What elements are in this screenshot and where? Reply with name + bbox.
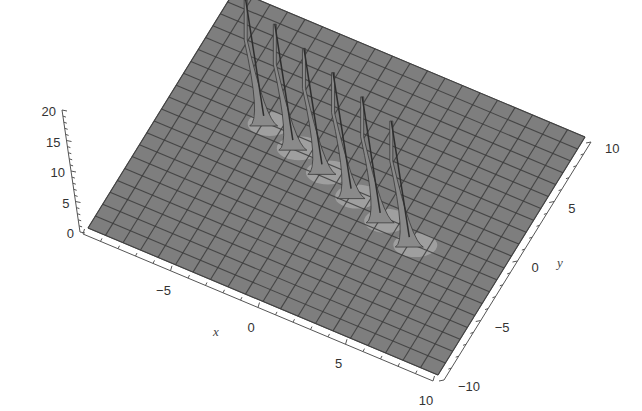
- z-tick-label: 0: [67, 226, 74, 241]
- z-tick: [71, 171, 76, 172]
- y-tick-label: 10: [605, 141, 619, 156]
- y-tick-label: −5: [495, 320, 510, 335]
- x-tick: [258, 303, 260, 308]
- x-tick: [381, 356, 383, 359]
- x-tick: [346, 339, 348, 344]
- x-tick: [171, 266, 173, 271]
- x-tick: [206, 282, 208, 285]
- x-tick: [328, 334, 330, 337]
- x-tick-label: −5: [156, 283, 171, 298]
- z-tick: [76, 202, 81, 203]
- x-tick: [101, 238, 103, 241]
- x-tick: [398, 363, 400, 366]
- y-tick: [439, 380, 444, 381]
- x-tick: [136, 253, 138, 256]
- z-tick: [67, 141, 72, 142]
- y-tick-label: −10: [458, 379, 480, 394]
- z-tick-label: 5: [62, 196, 69, 211]
- x-tick: [433, 376, 435, 381]
- y-tick-label: 0: [532, 260, 539, 275]
- x-tick: [118, 246, 120, 249]
- surface-plot-3d: −50510−10−5051005101520xy: [0, 0, 642, 411]
- x-tick: [311, 327, 313, 330]
- x-axis-label: x: [212, 324, 219, 339]
- x-tick: [188, 275, 190, 278]
- x-tick-label: 0: [247, 320, 254, 335]
- x-tick: [363, 349, 365, 352]
- z-tick: [62, 110, 67, 111]
- x-tick: [241, 297, 243, 300]
- y-axis-label: y: [555, 255, 563, 270]
- surface: [88, 0, 585, 375]
- z-tick-label: 15: [46, 135, 60, 150]
- x-tick: [416, 371, 418, 374]
- x-tick-label: 5: [335, 356, 342, 371]
- z-tick-label: 10: [51, 165, 65, 180]
- z-tick-label: 20: [42, 104, 56, 119]
- x-tick: [276, 312, 278, 315]
- x-tick: [223, 290, 225, 293]
- y-tick-label: 5: [568, 201, 575, 216]
- x-tick-label: 10: [419, 393, 433, 408]
- x-tick: [293, 319, 295, 322]
- surface-plane: [88, 0, 585, 375]
- x-tick: [153, 260, 155, 263]
- z-tick: [80, 232, 85, 233]
